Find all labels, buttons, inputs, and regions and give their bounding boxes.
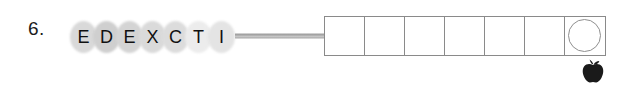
letter-bubble: I <box>208 21 235 53</box>
letter-glyph: D <box>100 28 113 46</box>
letter-glyph: T <box>193 28 204 46</box>
answer-box[interactable] <box>365 17 405 55</box>
letter-glyph: E <box>123 28 135 46</box>
worksheet-puzzle-row: 6. E D E X C T I <box>0 0 632 85</box>
letter-glyph: C <box>169 28 182 46</box>
letter-glyph: I <box>219 28 224 46</box>
apple-icon <box>578 59 608 85</box>
answer-box-circled[interactable] <box>565 17 605 55</box>
letter-glyph: X <box>146 28 158 46</box>
item-number-label: 6. <box>28 19 45 38</box>
letter-glyph: E <box>77 28 89 46</box>
scrambled-letters-group: E D E X C T I <box>70 20 231 54</box>
answer-box-row <box>324 16 606 56</box>
connector-line <box>235 33 325 39</box>
answer-box[interactable] <box>325 17 365 55</box>
answer-box[interactable] <box>485 17 525 55</box>
answer-box[interactable] <box>525 17 565 55</box>
answer-box[interactable] <box>445 17 485 55</box>
circle-marker-icon <box>568 19 601 52</box>
answer-box[interactable] <box>405 17 445 55</box>
